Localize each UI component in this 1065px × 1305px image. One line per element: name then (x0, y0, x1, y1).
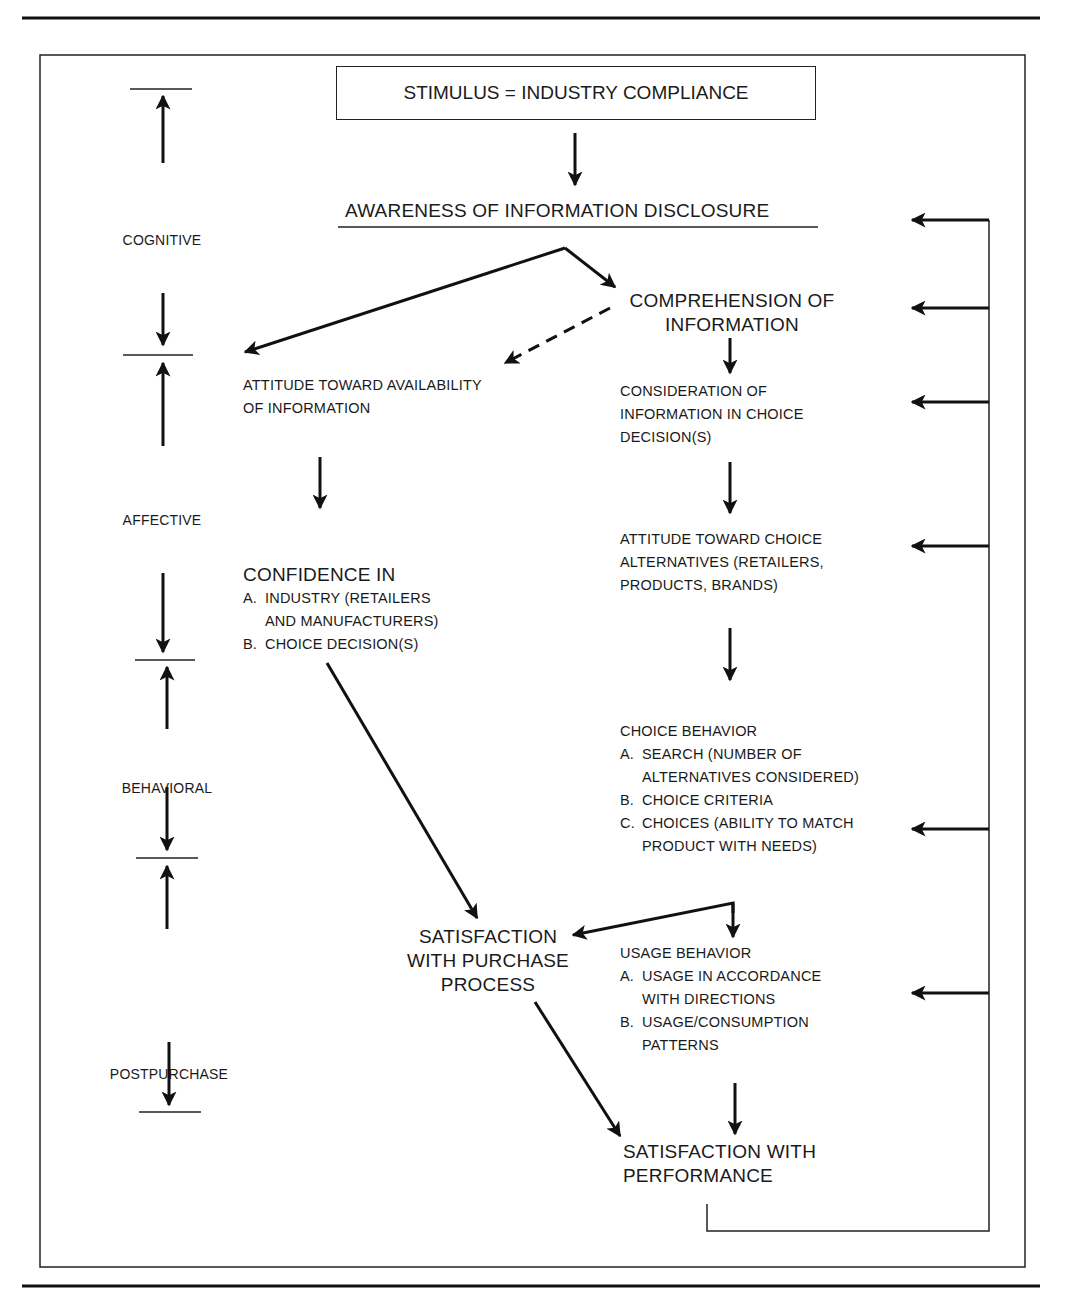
attitude-choice-line-3: PRODUCTS, BRANDS) (620, 574, 824, 597)
usage-behavior-item-a: A.USAGE IN ACCORDANCE WITH DIRECTIONS (620, 965, 821, 1011)
comprehension-line-1: COMPREHENSION OF (617, 289, 847, 313)
satisfaction-purchase-line-3: PROCESS (403, 973, 573, 997)
choice-behavior-item-a: A.SEARCH (NUMBER OF ALTERNATIVES CONSIDE… (620, 743, 859, 789)
satisfaction-purchase-node: SATISFACTION WITH PURCHASE PROCESS (403, 925, 573, 997)
satisfaction-performance-line-2: PERFORMANCE (623, 1164, 816, 1188)
attitude-availability-node: ATTITUDE TOWARD AVAILABILITY OF INFORMAT… (243, 374, 482, 420)
attitude-choice-line-2: ALTERNATIVES (RETAILERS, (620, 551, 824, 574)
attitude-choice-line-1: ATTITUDE TOWARD CHOICE (620, 528, 824, 551)
satisfaction-performance-line-1: SATISFACTION WITH (623, 1140, 816, 1164)
stimulus-box: STIMULUS = INDUSTRY COMPLIANCE (336, 66, 816, 120)
confidence-title: CONFIDENCE IN (243, 563, 439, 587)
consideration-line-3: DECISION(S) (620, 426, 804, 449)
consideration-line-2: INFORMATION IN CHOICE (620, 403, 804, 426)
usage-behavior-item-b: B.USAGE/CONSUMPTION PATTERNS (620, 1011, 821, 1057)
stimulus-label: STIMULUS = INDUSTRY COMPLIANCE (403, 82, 748, 104)
stage-label-cognitive: COGNITIVE (82, 232, 242, 248)
consideration-line-1: CONSIDERATION OF (620, 380, 804, 403)
diagram-canvas: STIMULUS = INDUSTRY COMPLIANCE AWARENESS… (0, 0, 1065, 1305)
awareness-label: AWARENESS OF INFORMATION DISCLOSURE (345, 200, 769, 222)
choice-behavior-node: CHOICE BEHAVIOR A.SEARCH (NUMBER OF ALTE… (620, 720, 859, 858)
comprehension-node: COMPREHENSION OF INFORMATION (617, 289, 847, 337)
attitude-availability-line-1: ATTITUDE TOWARD AVAILABILITY (243, 374, 482, 397)
consideration-node: CONSIDERATION OF INFORMATION IN CHOICE D… (620, 380, 804, 449)
connector-lines (0, 0, 1065, 1305)
satisfaction-performance-node: SATISFACTION WITH PERFORMANCE (623, 1140, 816, 1188)
stage-label-behavioral: BEHAVIORAL (87, 780, 247, 796)
satisfaction-purchase-line-2: WITH PURCHASE (403, 949, 573, 973)
confidence-item-b: B.CHOICE DECISION(S) (243, 633, 439, 656)
usage-behavior-title: USAGE BEHAVIOR (620, 942, 821, 965)
choice-behavior-title: CHOICE BEHAVIOR (620, 720, 859, 743)
usage-behavior-node: USAGE BEHAVIOR A.USAGE IN ACCORDANCE WIT… (620, 942, 821, 1057)
stage-label-postpurchase: POSTPURCHASE (89, 1066, 249, 1082)
stage-label-affective: AFFECTIVE (82, 512, 242, 528)
attitude-availability-line-2: OF INFORMATION (243, 397, 482, 420)
confidence-item-a: A.INDUSTRY (RETAILERS AND MANUFACTURERS) (243, 587, 439, 633)
choice-behavior-item-c: C.CHOICES (ABILITY TO MATCH PRODUCT WITH… (620, 812, 859, 858)
confidence-node: CONFIDENCE IN A.INDUSTRY (RETAILERS AND … (243, 563, 439, 656)
attitude-choice-node: ATTITUDE TOWARD CHOICE ALTERNATIVES (RET… (620, 528, 824, 597)
choice-behavior-item-b: B.CHOICE CRITERIA (620, 789, 859, 812)
comprehension-line-2: INFORMATION (617, 313, 847, 337)
satisfaction-purchase-line-1: SATISFACTION (403, 925, 573, 949)
